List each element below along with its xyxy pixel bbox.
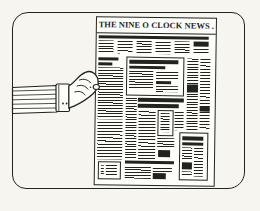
cuff-button [66, 103, 68, 105]
pointing-hand [69, 72, 98, 108]
grip-thumb [93, 85, 99, 90]
shirt-cuff [56, 84, 70, 112]
cuff-button [62, 103, 64, 105]
knuckle-dot [90, 86, 92, 88]
arm-illustration [0, 0, 260, 211]
